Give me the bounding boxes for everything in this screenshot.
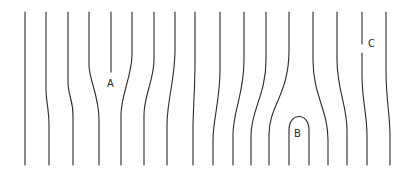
label-b: B: [294, 129, 301, 139]
line-18: [386, 12, 390, 165]
line-13: [269, 12, 289, 165]
line-2: [46, 12, 49, 165]
line-10: [213, 12, 220, 165]
line-11: [233, 12, 244, 165]
label-a: A: [107, 79, 114, 89]
diagram-canvas: [0, 0, 405, 173]
line-9: [193, 12, 195, 165]
line-6: [121, 12, 132, 165]
line-16: [337, 12, 347, 165]
line-8: [167, 12, 175, 165]
line-12: [251, 12, 266, 165]
label-c: C: [368, 39, 375, 49]
line-15: [313, 12, 328, 165]
line-7: [144, 12, 154, 165]
line-3: [68, 12, 73, 165]
line-17b: [362, 53, 367, 165]
line-B-loop: [289, 117, 309, 166]
line-4: [89, 12, 99, 165]
flow-lines-diagram: ABC: [0, 0, 405, 173]
